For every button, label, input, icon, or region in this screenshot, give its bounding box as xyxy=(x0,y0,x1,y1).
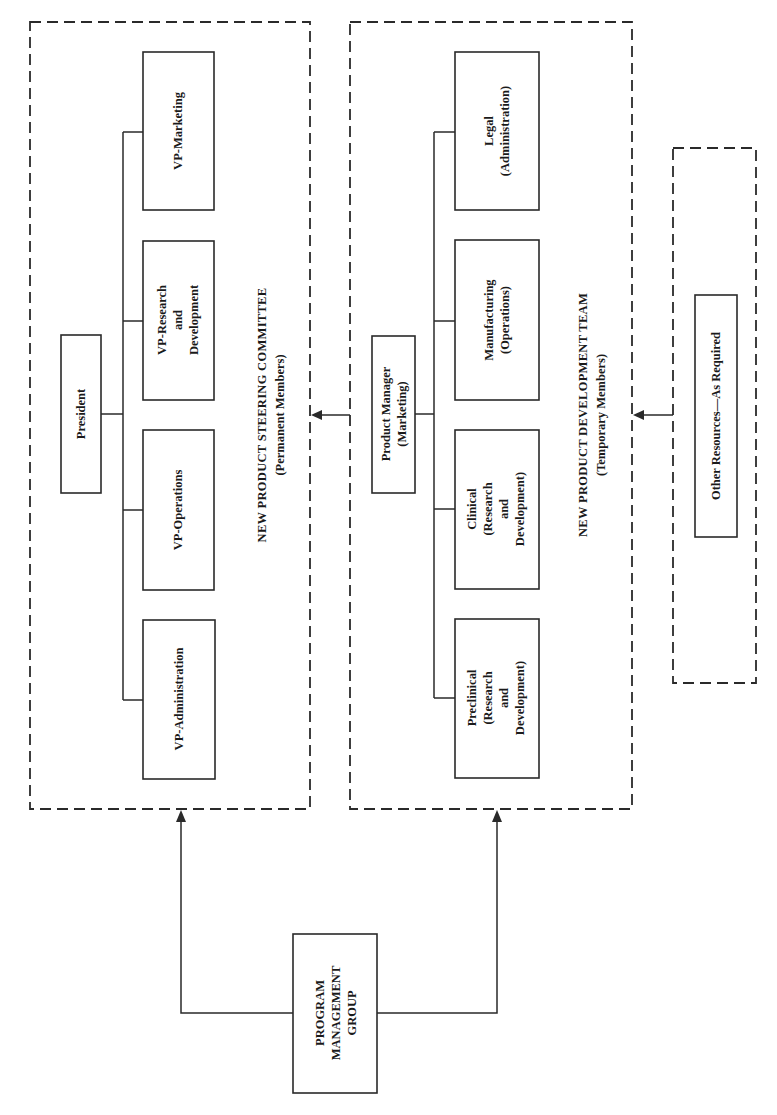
vp-administration-label: VP-Administration xyxy=(172,648,186,751)
vp-rd-label-line1: VP-Research xyxy=(155,285,169,355)
steering-committee-subtitle: (Permanent Members) xyxy=(273,354,287,475)
legal-label-line1: Legal xyxy=(482,116,496,146)
development-team-group: Product Manager (Marketing) Legal (Admin… xyxy=(350,22,632,809)
legal-box xyxy=(455,52,539,210)
clinical-label-line2: (Research xyxy=(481,482,495,535)
development-team-subtitle: (Temporary Members) xyxy=(594,354,608,476)
pmg-to-devteam-line xyxy=(377,818,497,1013)
other-resources-group: Other Resources—As Required xyxy=(673,148,756,683)
arrow-left-icon xyxy=(311,410,322,420)
legal-label-line2: (Administration) xyxy=(498,86,512,176)
president-label: President xyxy=(74,388,88,439)
manufacturing-label-line1: Manufacturing xyxy=(482,279,496,361)
arrow-left-icon xyxy=(633,410,644,420)
program-management-group: PROGRAM MANAGEMENT GROUP xyxy=(176,810,502,1093)
org-diagram: President VP-Marketing VP-Research and D… xyxy=(0,0,777,1115)
vp-operations-label: VP-Operations xyxy=(171,470,185,551)
clinical-label-line4: Development) xyxy=(513,472,527,546)
vp-rd-label-line3: Development xyxy=(187,284,201,355)
other-resources-label: Other Resources—As Required xyxy=(709,332,723,500)
pmg-to-steering-line xyxy=(181,818,293,1013)
clinical-label-line1: Clinical xyxy=(465,488,479,530)
development-team-title: NEW PRODUCT DEVELOPMENT TEAM xyxy=(576,293,590,537)
vp-rd-label-line2: and xyxy=(171,310,185,330)
pmg-label-line1: PROGRAM xyxy=(313,980,327,1046)
inter-group-arrows xyxy=(311,410,673,420)
steering-committee-title: NEW PRODUCT STEERING COMMITTEE xyxy=(255,288,269,543)
vp-marketing-label: VP-Marketing xyxy=(171,91,185,170)
preclinical-label-line1: Preclinical xyxy=(465,669,479,726)
pmg-label-line2: MANAGEMENT xyxy=(329,965,343,1060)
steering-committee-group: President VP-Marketing VP-Research and D… xyxy=(30,22,310,809)
arrow-up-icon xyxy=(176,810,186,822)
preclinical-label-line4: Development) xyxy=(513,661,527,735)
pmg-label-line3: GROUP xyxy=(345,990,359,1036)
preclinical-label-line2: (Research xyxy=(481,671,495,724)
product-manager-label-line1: Product Manager xyxy=(379,366,393,461)
product-manager-label-line2: (Marketing) xyxy=(395,381,409,446)
arrow-up-icon xyxy=(492,810,502,822)
clinical-label-line3: and xyxy=(497,499,511,519)
preclinical-label-line3: and xyxy=(497,688,511,708)
manufacturing-box xyxy=(455,240,539,400)
manufacturing-label-line2: (Operations) xyxy=(498,286,512,354)
